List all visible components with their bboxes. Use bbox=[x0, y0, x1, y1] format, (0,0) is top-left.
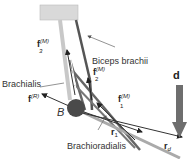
brachioradialis-label: Brachioradialis bbox=[67, 142, 126, 151]
joint-label: B bbox=[57, 107, 64, 118]
biceps-line bbox=[76, 20, 90, 80]
elbow-joint bbox=[67, 99, 85, 117]
f3-label: f(M) 3 bbox=[37, 40, 49, 54]
f2-label: f(M) 2 bbox=[93, 68, 105, 82]
fR-label: f(R) bbox=[28, 95, 39, 104]
shoulder-box bbox=[40, 5, 78, 20]
f1-label: f(M) 1 bbox=[118, 95, 130, 109]
rd-label: rd bbox=[164, 142, 171, 151]
r1-label: r1 bbox=[111, 128, 118, 137]
brachialis-label: Brachialis bbox=[2, 80, 41, 89]
load-arrow bbox=[176, 85, 183, 123]
d-label: d bbox=[173, 70, 180, 81]
biceps-label: Biceps brachii bbox=[92, 57, 148, 66]
